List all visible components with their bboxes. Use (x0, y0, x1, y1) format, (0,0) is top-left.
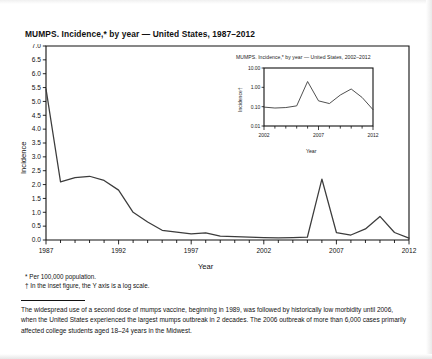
main-y-tick-label: 5.5 (32, 84, 41, 91)
inset-data-line (264, 82, 373, 110)
inset-y-tick-label: 0.01 (251, 123, 261, 129)
main-x-tick-label: 1987 (39, 247, 54, 254)
figure-caption: The widespread use of a second dose of m… (21, 305, 409, 336)
main-y-tick-label: 3.0 (32, 153, 41, 160)
main-y-tick-label: 6.5 (32, 56, 41, 63)
inset-y-tick-label: 10.00 (248, 65, 261, 71)
main-y-tick-label: 2.5 (32, 167, 41, 174)
main-x-axis-title: Year (198, 262, 213, 271)
main-y-tick-label: 2.0 (32, 181, 41, 188)
main-y-tick-label: 4.5 (32, 112, 41, 119)
main-y-tick-label: 1.5 (32, 195, 41, 202)
main-y-axis-title: Incidence (19, 141, 28, 174)
footnote-log-scale: † In the inset figure, the Y axis is a l… (25, 281, 149, 290)
main-x-axis-ticks: 198719921997200220072012 (39, 240, 417, 254)
main-y-tick-label: 4.0 (32, 125, 41, 132)
main-y-tick-label: 1.0 (32, 209, 41, 216)
figure-title: MUMPS. Incidence,* by year — United Stat… (25, 29, 255, 39)
main-y-tick-label: 0.5 (32, 222, 41, 229)
inset-y-axis-ticks: 0.010.101.0010.00 (248, 65, 264, 129)
caption-divider (21, 300, 85, 301)
inset-y-axis-title: Incidence† (237, 87, 243, 112)
main-x-tick-label: 2007 (329, 247, 344, 254)
figure-page: MUMPS. Incidence,* by year — United Stat… (0, 0, 432, 359)
inset-chart-svg: 0.010.101.0010.00 200220072012 (232, 54, 384, 158)
main-y-tick-label: 0.0 (32, 236, 41, 243)
main-x-tick-label: 2012 (402, 247, 417, 254)
main-y-axis-ticks: 0.00.51.01.52.02.53.03.54.04.55.05.56.06… (32, 44, 46, 243)
main-x-tick-label: 1997 (184, 247, 199, 254)
inset-title: MUMPS. Incidence,* by year — United Stat… (236, 54, 386, 61)
main-y-tick-label: 7.0 (32, 44, 41, 49)
inset-x-axis-ticks: 200220072012 (258, 126, 378, 138)
main-x-tick-label: 2002 (256, 247, 271, 254)
inset-plot-frame (264, 68, 373, 126)
main-y-tick-label: 6.0 (32, 70, 41, 77)
page-edge-bottom (0, 354, 432, 359)
main-y-tick-label: 5.0 (32, 98, 41, 105)
inset-y-tick-label: 1.00 (251, 84, 261, 90)
inset-chart: MUMPS. Incidence,* by year — United Stat… (232, 54, 384, 158)
footnotes: * Per 100,000 population. † In the inset… (25, 272, 149, 291)
inset-x-axis-title: Year (306, 148, 316, 154)
page-edge-top (0, 0, 432, 4)
inset-y-tick-label: 0.10 (251, 104, 261, 110)
main-y-tick-label: 3.5 (32, 139, 41, 146)
inset-x-tick-label: 2012 (367, 132, 378, 138)
footnote-per-population: * Per 100,000 population. (25, 272, 149, 281)
inset-x-tick-label: 2002 (258, 132, 269, 138)
inset-x-tick-label: 2007 (313, 132, 324, 138)
main-x-tick-label: 1992 (111, 247, 126, 254)
